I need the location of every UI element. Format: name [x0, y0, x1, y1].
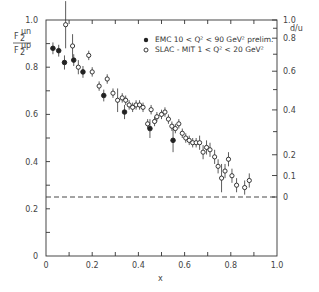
legend-filled-marker-icon: [144, 38, 148, 42]
slac-data-point: [90, 70, 94, 74]
x-tick-label: 0.2: [86, 261, 99, 270]
svg-text:F: F: [14, 32, 19, 41]
slac-data-point: [149, 108, 153, 112]
legend-open-marker-icon: [144, 48, 148, 52]
emc-data-point: [62, 60, 67, 65]
slac-data-point: [116, 98, 120, 102]
slac-data-point: [173, 126, 177, 130]
legend: EMC 10 < Q² < 90 GeV² prelim. SLAC - MIT…: [144, 35, 274, 54]
right-tick-label: 0.6: [283, 67, 296, 76]
svg-text:F: F: [14, 46, 19, 55]
emc-data-point: [51, 46, 56, 51]
slac-data-point: [141, 105, 145, 109]
slac-data-point: [64, 23, 68, 27]
slac-data-point: [177, 122, 181, 126]
slac-data-point: [234, 183, 238, 187]
slac-data-point: [180, 131, 184, 135]
slac-data-point: [111, 91, 115, 95]
slac-data-point: [230, 174, 234, 178]
slac-data-point: [243, 185, 247, 189]
slac-data-point: [105, 77, 109, 81]
y-tick-label: 0.4: [25, 158, 38, 167]
right-tick-label: 0.1: [283, 172, 296, 181]
slac-data-point: [166, 117, 170, 121]
slac-data-point: [163, 110, 167, 114]
x-tick-label: 0.6: [178, 261, 191, 270]
emc-data-point: [122, 110, 127, 115]
axes: 00.20.40.60.81.000.20.40.60.81.01.00.80.…: [25, 16, 295, 270]
right-tick-label: 0.4: [283, 106, 296, 115]
slac-data-point: [226, 157, 230, 161]
emc-data-point: [71, 58, 76, 63]
slac-data-point: [97, 84, 101, 88]
y-tick-label: 0.8: [25, 63, 38, 72]
slac-data-point: [146, 122, 150, 126]
slac-data-point: [155, 115, 159, 119]
legend-emc-label: EMC 10 < Q² < 90 GeV² prelim.: [155, 35, 273, 44]
right-tick-label: 0.2: [283, 151, 296, 160]
plot-frame: [46, 20, 277, 256]
right-axis-label: d/u: [290, 24, 303, 33]
slac-data-point: [87, 53, 91, 57]
y-tick-label: 1.0: [25, 16, 38, 25]
slac-data-point: [70, 44, 74, 48]
y-tick-label: 0: [33, 252, 38, 261]
chart: 00.20.40.60.81.000.20.40.60.81.01.00.80.…: [0, 0, 319, 292]
y-axis-label: F 2 μn F 2 μp: [13, 27, 31, 57]
y-tick-label: 0.2: [25, 205, 38, 214]
right-tick-label: 0: [283, 193, 288, 202]
emc-data-point: [56, 48, 61, 53]
x-tick-label: 0: [43, 261, 48, 270]
slac-data-point: [213, 155, 217, 159]
slac-data-point: [223, 169, 227, 173]
svg-text:μn: μn: [21, 27, 31, 36]
slac-data-point: [201, 150, 205, 154]
slac-data-point: [208, 148, 212, 152]
emc-data-point: [171, 138, 176, 143]
emc-data-point: [81, 70, 86, 75]
slac-data-point: [124, 98, 128, 102]
slac-data-point: [198, 141, 202, 145]
x-tick-label: 1.0: [271, 261, 284, 270]
x-axis-label: x: [158, 274, 163, 283]
slac-data-point: [219, 176, 223, 180]
slac-data-point: [76, 65, 80, 69]
emc-data-point: [148, 126, 153, 131]
legend-slac-label: SLAC - MIT 1 < Q² < 20 GeV²: [155, 45, 264, 54]
svg-text:μp: μp: [21, 41, 31, 50]
data-points: [51, 1, 252, 195]
x-tick-label: 0.8: [224, 261, 237, 270]
slac-data-point: [247, 178, 251, 182]
emc-data-point: [101, 93, 106, 98]
x-tick-label: 0.4: [132, 261, 145, 270]
y-tick-label: 0.6: [25, 110, 38, 119]
slac-data-point: [152, 119, 156, 123]
slac-data-point: [216, 164, 220, 168]
right-tick-label: 0.8: [283, 34, 296, 43]
